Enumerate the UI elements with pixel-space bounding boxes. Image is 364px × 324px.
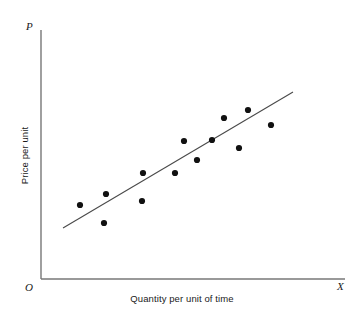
scatter-plot-figure: P O X Price per unit Quantity per unit o… [0,0,364,324]
data-point [140,170,146,176]
y-axis-letter: P [26,20,33,32]
data-point [194,157,200,163]
data-point [268,122,274,128]
data-point [221,115,227,121]
data-point [181,138,187,144]
plot-canvas [0,0,364,324]
data-point [245,107,251,113]
data-point [77,202,83,208]
data-point [103,191,109,197]
data-point [139,198,145,204]
x-axis-title: Quantity per unit of time [0,293,364,304]
origin-letter: O [25,281,33,293]
x-axis-letter: X [337,280,344,292]
data-point [101,220,107,226]
regression-line [63,92,293,228]
axes-group [41,30,345,279]
y-axis-title: Price per unit [19,96,30,216]
data-point [209,137,215,143]
regression-line-group [63,92,293,228]
data-point [236,145,242,151]
data-point [172,170,178,176]
data-points-group [77,107,274,226]
